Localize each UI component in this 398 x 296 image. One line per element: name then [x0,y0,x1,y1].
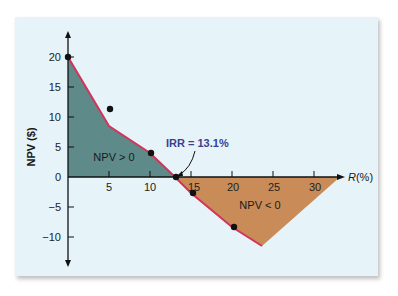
y-axis-title: NPV ($) [25,127,37,166]
y-tick-label: 5 [55,141,61,153]
x-axis-arrow-icon [337,174,345,180]
data-point [190,190,196,196]
x-axis-title: R(%) [348,171,373,183]
x-tick-label: 5 [106,181,112,193]
data-point [173,174,179,180]
x-tick-label: 30 [309,181,321,193]
y-axis-arrow-down-icon [65,260,71,267]
x-tick-label: 10 [144,181,156,193]
y-tick-label: −5 [48,201,61,213]
negative-region-label: NPV < 0 [239,199,280,211]
irr-callout-arrow [179,151,195,175]
y-tick-label: 20 [49,51,61,63]
data-point [107,106,113,112]
data-point [65,54,71,60]
y-axis-arrow-up-icon [65,31,71,38]
y-tick-label: 15 [49,81,61,93]
positive-region-label: NPV > 0 [93,151,134,163]
y-tick-label: 10 [49,111,61,123]
data-point [148,150,154,156]
irr-annotation: IRR = 13.1% [166,137,229,149]
npv-profile-chart: 20 15 10 5 0 −5 −10 5 10 15 20 25 30 NPV… [0,0,398,296]
y-tick-label: 0 [55,171,61,183]
data-point [231,224,237,230]
x-tick-label: 25 [268,181,280,193]
x-axis-title-unit: (%) [356,171,373,183]
x-tick-label: 20 [227,181,239,193]
x-axis-title-variable: R [348,171,356,183]
y-tick-label: −10 [42,231,61,243]
